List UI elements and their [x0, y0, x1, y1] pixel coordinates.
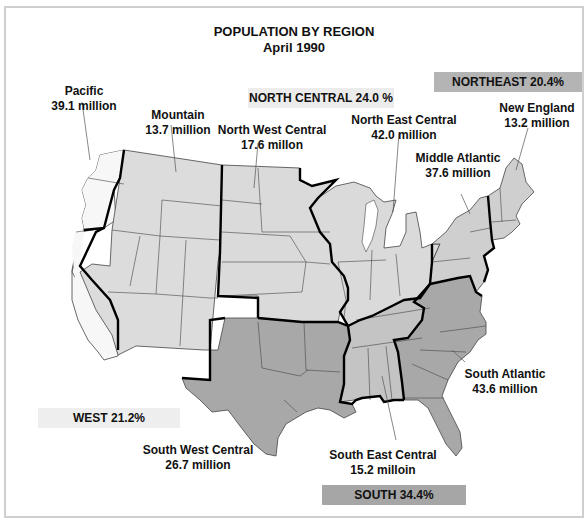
label-middle-atlantic: Middle Atlantic 37.6 million	[406, 151, 510, 181]
region-banner-northeast: NORTHEAST 20.4%	[434, 72, 582, 92]
label-mountain-name: Mountain	[130, 108, 226, 123]
label-south-east-central: South East Central 15.2 milloin	[324, 448, 442, 478]
label-new-england: New England 13.2 million	[492, 101, 582, 131]
label-south-east-central-name: South East Central	[324, 448, 442, 463]
label-north-west-central: North West Central 17.6 millon	[210, 123, 334, 153]
label-pacific-population: 39.1 million	[22, 99, 146, 114]
label-north-west-central-population: 17.6 millon	[210, 138, 334, 153]
region-banner-south: SOUTH 34.4%	[322, 485, 466, 505]
label-south-atlantic: South Atlantic 43.6 million	[450, 367, 560, 397]
label-north-west-central-name: North West Central	[210, 123, 334, 138]
label-middle-atlantic-population: 37.6 million	[406, 166, 510, 181]
label-new-england-name: New England	[492, 101, 582, 116]
label-south-atlantic-population: 43.6 million	[450, 382, 560, 397]
label-south-atlantic-name: South Atlantic	[450, 367, 560, 382]
label-pacific: Pacific 39.1 million	[22, 84, 146, 114]
label-south-west-central: South West Central 26.7 million	[134, 443, 262, 473]
label-south-east-central-population: 15.2 milloin	[324, 463, 442, 478]
region-banner-west: WEST 21.2%	[38, 408, 180, 428]
label-middle-atlantic-name: Middle Atlantic	[406, 151, 510, 166]
label-north-east-central-name: North East Central	[346, 113, 462, 128]
label-north-east-central-population: 42.0 million	[346, 128, 462, 143]
label-south-west-central-population: 26.7 million	[134, 458, 262, 473]
label-pacific-name: Pacific	[22, 84, 146, 99]
map-subtitle: April 1990	[0, 40, 588, 56]
label-south-west-central-name: South West Central	[134, 443, 262, 458]
label-new-england-population: 13.2 million	[492, 116, 582, 131]
region-banner-north-central: NORTH CENTRAL 24.0 %	[248, 88, 394, 108]
label-north-east-central: North East Central 42.0 million	[346, 113, 462, 143]
map-title: POPULATION BY REGION	[0, 24, 588, 40]
